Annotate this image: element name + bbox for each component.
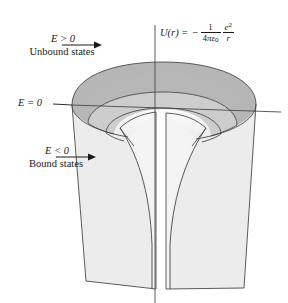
formula-term-numerator: e2 (223, 21, 235, 33)
formula-coefficient-denominator: 4πε0 (201, 33, 221, 45)
potential-energy-formula: U(r)=− 1 4πε0 e2 r (160, 21, 235, 45)
formula-denominator-epsilon-subscript: 0 (215, 37, 219, 45)
bound-states-label: E < 0 Bound states (8, 145, 104, 170)
e-zero-label: E = 0 (18, 97, 42, 109)
formula-minus-sign: − (193, 27, 199, 38)
formula-coefficient-numerator: 1 (201, 22, 221, 33)
formula-coulomb-constant: 1 4πε0 (201, 22, 221, 45)
bound-energy-condition: E < 0 (45, 145, 69, 156)
formula-equals: = (182, 27, 188, 38)
formula-lhs: U(r) (160, 27, 179, 38)
unbound-energy-condition: E > 0 (51, 33, 75, 44)
unbound-states-text: Unbound states (14, 46, 110, 58)
unbound-states-label: E > 0 Unbound states (14, 33, 110, 58)
formula-term-denominator: r (223, 33, 235, 44)
e-zero-text: E = 0 (18, 97, 42, 108)
coulomb-potential-figure: E > 0 Unbound states E = 0 E < 0 Bound s… (0, 0, 288, 303)
bound-states-text: Bound states (8, 158, 104, 170)
formula-charge-over-radius: e2 r (223, 21, 235, 44)
e-zero-leader (53, 104, 72, 105)
formula-charge-exponent: 2 (229, 21, 233, 29)
